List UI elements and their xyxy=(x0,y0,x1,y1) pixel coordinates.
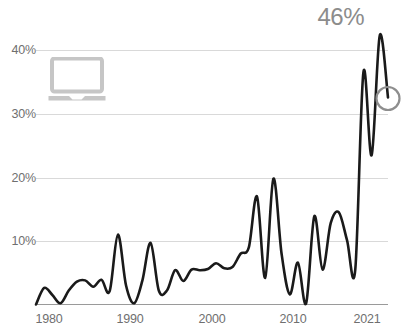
x-axis-label-2021: 2021 xyxy=(345,312,389,326)
laptop-icon xyxy=(48,57,106,102)
y-axis-label-40: 40% xyxy=(0,43,36,57)
x-axis-label-2010: 2010 xyxy=(271,312,315,326)
y-axis-label-10: 10% xyxy=(0,234,36,248)
y-axis-label-20: 20% xyxy=(0,171,36,185)
x-axis-label-1990: 1990 xyxy=(108,312,152,326)
x-axis-label-2000: 2000 xyxy=(190,312,234,326)
value-annotation-label: 46% xyxy=(317,5,364,29)
line-chart-plot xyxy=(0,0,402,336)
x-axis-label-1980: 1980 xyxy=(27,312,71,326)
y-axis-label-30: 30% xyxy=(0,107,36,121)
chart-container: 46% 40% 30% 20% 10% 1980 1990 2000 2010 … xyxy=(0,0,402,336)
